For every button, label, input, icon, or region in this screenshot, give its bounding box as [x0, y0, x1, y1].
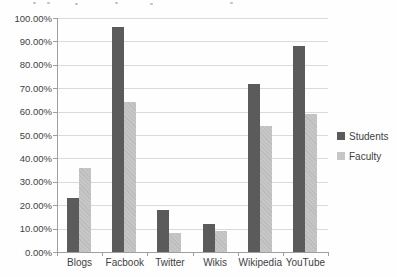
- y-axis-line: [57, 18, 58, 253]
- y-tick-label-90: 90.00%: [0, 36, 52, 47]
- y-tick-label-70: 70.00%: [0, 83, 52, 94]
- gridline-50: [57, 135, 328, 136]
- gridline-10: [57, 229, 328, 230]
- x-axis-tick-5: [283, 252, 284, 256]
- bar-faculty-wikis: [215, 231, 227, 252]
- bar-students-youtube: [293, 46, 305, 252]
- bar-faculty-facbook: [124, 102, 136, 252]
- bar-faculty-wikipedia: [260, 126, 272, 252]
- legend: Students Faculty: [337, 126, 388, 166]
- y-tick-label-60: 60.00%: [0, 106, 52, 117]
- legend-item-students: Students: [337, 126, 388, 146]
- y-tick-label-30: 30.00%: [0, 176, 52, 187]
- bar-faculty-blogs: [79, 168, 91, 252]
- gridline-100: [57, 18, 328, 19]
- x-tick-label-youtube: YouTube: [286, 257, 325, 268]
- x-tick-label-facbook: Facbook: [106, 257, 144, 268]
- bar-students-twitter: [157, 210, 169, 252]
- x-axis-tick-2: [147, 252, 148, 256]
- legend-label-faculty: Faculty: [349, 151, 381, 162]
- gridline-80: [57, 65, 328, 66]
- gridline-20: [57, 205, 328, 206]
- x-tick-label-wikipedia: Wikipedia: [239, 257, 282, 268]
- y-tick-label-0: 0.00%: [0, 247, 52, 258]
- x-axis-tick-6: [328, 252, 329, 256]
- bar-students-blogs: [67, 198, 79, 252]
- bar-students-wikis: [203, 224, 215, 252]
- gridline-60: [57, 112, 328, 113]
- x-tick-label-wikis: Wikis: [203, 257, 227, 268]
- legend-marker-students: [337, 132, 345, 140]
- x-axis-tick-0: [57, 252, 58, 256]
- x-tick-label-blogs: Blogs: [67, 257, 92, 268]
- x-axis-tick-4: [238, 252, 239, 256]
- bar-faculty-twitter: [169, 233, 181, 252]
- x-axis-tick-1: [102, 252, 103, 256]
- y-tick-label-100: 100.00%: [0, 13, 52, 24]
- bar-faculty-youtube: [305, 114, 317, 252]
- gridline-40: [57, 158, 328, 159]
- y-tick-label-80: 80.00%: [0, 59, 52, 70]
- y-tick-label-40: 40.00%: [0, 153, 52, 164]
- bar-students-wikipedia: [248, 84, 260, 253]
- gridline-70: [57, 88, 328, 89]
- x-axis-tick-3: [193, 252, 194, 256]
- legend-item-faculty: Faculty: [337, 146, 388, 166]
- legend-marker-faculty: [337, 152, 345, 160]
- y-tick-label-20: 20.00%: [0, 200, 52, 211]
- y-tick-label-10: 10.00%: [0, 223, 52, 234]
- gridline-30: [57, 182, 328, 183]
- bar-students-facbook: [112, 27, 124, 252]
- bar-chart-screenshot: 0.00%10.00%20.00%30.00%40.00%50.00%60.00…: [0, 0, 397, 277]
- legend-label-students: Students: [349, 131, 388, 142]
- gridline-90: [57, 41, 328, 42]
- x-tick-label-twitter: Twitter: [155, 257, 184, 268]
- y-tick-label-50: 50.00%: [0, 130, 52, 141]
